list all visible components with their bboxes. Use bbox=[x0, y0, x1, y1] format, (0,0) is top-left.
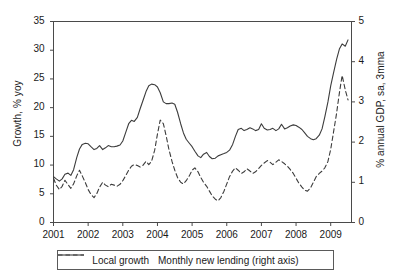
y-axis-right-tick-label: 0 bbox=[359, 216, 381, 227]
y-axis-left-tick-label: 25 bbox=[23, 72, 45, 83]
y-axis-left-tick-label: 15 bbox=[23, 129, 45, 140]
y-axis-left-tick-label: 20 bbox=[23, 101, 45, 112]
legend-label-local-growth: Local growth bbox=[92, 255, 149, 266]
y-axis-right-tick-label: 2 bbox=[359, 135, 381, 146]
chart-container: Growth, % yoy % annual GDP, sa, 3mma 051… bbox=[0, 0, 394, 278]
chart-legend: Local growth Monthly new lending (right … bbox=[57, 250, 334, 270]
y-axis-left-tick-label: 30 bbox=[23, 43, 45, 54]
y-axis-left-tick-label: 5 bbox=[23, 187, 45, 198]
x-axis-tick-label: 2009 bbox=[311, 229, 351, 240]
y-axis-right-tick-label: 4 bbox=[359, 55, 381, 66]
y-axis-right-tick-label: 1 bbox=[359, 175, 381, 186]
legend-item-local-growth: Local growth bbox=[92, 255, 149, 266]
series-line-monthly-new-lending bbox=[54, 75, 349, 200]
legend-item-monthly-new-lending: Monthly new lending (right axis) bbox=[158, 255, 299, 266]
y-axis-right-tick-label: 5 bbox=[359, 15, 381, 26]
legend-label-monthly-new-lending: Monthly new lending (right axis) bbox=[158, 255, 299, 266]
legend-swatch-dashed-icon bbox=[58, 251, 84, 259]
y-axis-left-tick-label: 0 bbox=[23, 216, 45, 227]
y-axis-left-tick-label: 35 bbox=[23, 15, 45, 26]
y-axis-left-tick-label: 10 bbox=[23, 158, 45, 169]
series-line-local-growth bbox=[54, 40, 349, 181]
y-axis-right-tick-label: 3 bbox=[359, 95, 381, 106]
plot-frame bbox=[54, 22, 352, 223]
